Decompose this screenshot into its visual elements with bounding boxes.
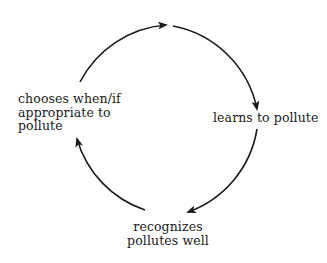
node-chooses-line-3: pollute [18, 119, 121, 133]
cycle-diagram: chooses when/if appropriate to pollute l… [0, 0, 327, 263]
node-chooses-line-1: chooses when/if [18, 92, 121, 106]
node-recognizes-line-2: pollutes well [118, 234, 218, 248]
arrow-recognizes-to-chooses [77, 139, 145, 210]
node-recognizes-line-1: recognizes [118, 220, 218, 234]
node-learns: learns to pollute [213, 111, 318, 125]
node-chooses: chooses when/if appropriate to pollute [18, 92, 121, 133]
arrow-top-to-learns [173, 26, 257, 109]
node-learns-line-1: learns to pollute [213, 111, 318, 125]
node-chooses-line-2: appropriate to [18, 106, 121, 120]
node-recognizes: recognizes pollutes well [118, 220, 218, 247]
arrow-learns-to-recognizes [188, 129, 257, 212]
arrow-chooses-to-top [80, 25, 166, 82]
